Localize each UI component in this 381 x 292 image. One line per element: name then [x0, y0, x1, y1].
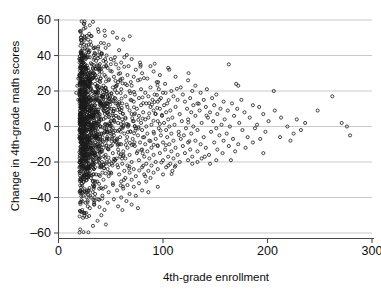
x-tick-label-300: 300	[362, 244, 381, 258]
y-tick-label-0: 0	[44, 120, 51, 134]
x-tick-label-200: 200	[257, 244, 278, 258]
y-tick-label--20: –20	[30, 155, 51, 169]
y-axis-title: Change in 4th-grade math scores	[9, 40, 21, 211]
scatter-plot-figure: –60–40–2002040600100200300 4th-grade enr…	[0, 0, 381, 292]
x-axis-title: 4th-grade enrollment	[163, 271, 270, 283]
plot-canvas: –60–40–2002040600100200300 4th-grade enr…	[0, 0, 381, 292]
x-tick-label-0: 0	[55, 244, 62, 258]
y-tick-label-60: 60	[37, 13, 51, 27]
y-tick-label-40: 40	[37, 49, 51, 63]
y-tick-label--60: –60	[30, 226, 51, 240]
x-tick-label-100: 100	[153, 244, 174, 258]
y-tick-label-20: 20	[37, 84, 51, 98]
y-tick-label--40: –40	[30, 191, 51, 205]
